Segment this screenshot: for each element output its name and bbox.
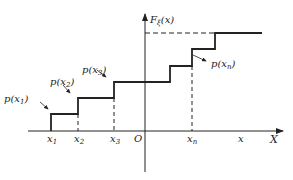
p-x1-label: p(x1) xyxy=(4,93,28,106)
p-xn-label: p(xn) xyxy=(211,58,235,71)
x3-tick-label: x3 xyxy=(110,133,121,146)
p-xn-arrow xyxy=(193,55,206,61)
p-x2-label: p(x2) xyxy=(50,76,74,89)
x-axis-label: X xyxy=(269,133,279,146)
x1-tick-label: x1 xyxy=(47,133,57,146)
cdf-step-diagram: Fξ(x) p(x1) p(x2) p(x3) p(xn) x1 x2 x3 x… xyxy=(0,0,293,180)
origin-label: O xyxy=(134,133,142,144)
x-tick-label: x xyxy=(238,133,244,144)
p-x1-arrow xyxy=(40,102,48,109)
y-axis-label: Fξ(x) xyxy=(149,14,174,27)
step-function-line xyxy=(51,33,262,131)
p-x3-label: p(x3) xyxy=(82,64,106,77)
xn-tick-label: xn xyxy=(187,133,198,146)
x2-tick-label: x2 xyxy=(74,133,85,146)
